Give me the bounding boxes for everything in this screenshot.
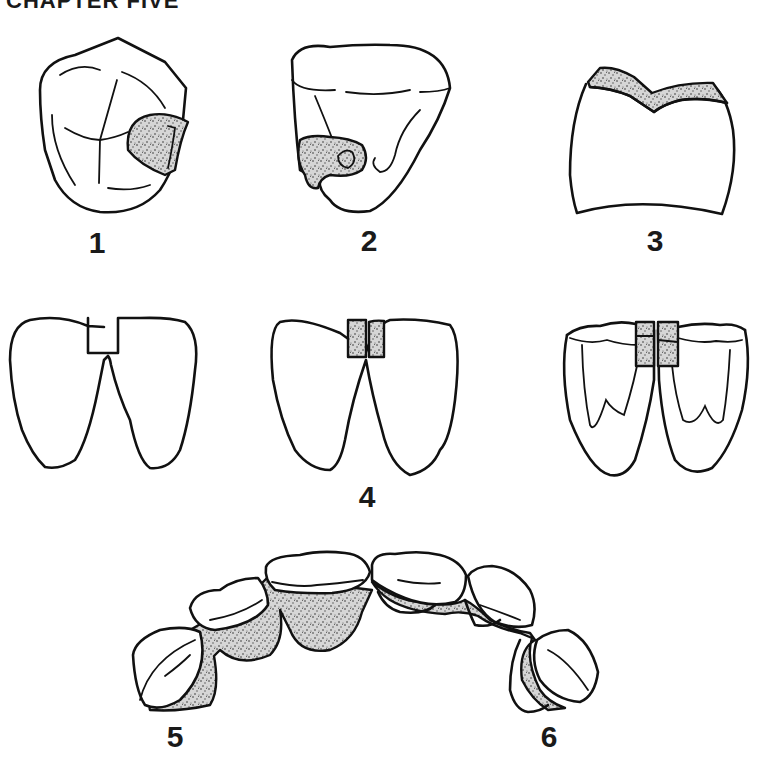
figure-6-arch — [372, 552, 598, 712]
figure-4c-splint-left — [636, 322, 654, 366]
figure-3-tooth — [570, 68, 734, 214]
figure-label-2: 2 — [361, 226, 378, 256]
dental-illustration — [0, 0, 779, 779]
figure-label-4: 4 — [359, 482, 376, 512]
figure-4a-teeth — [10, 318, 196, 468]
figure-label-6: 6 — [541, 722, 558, 752]
figure-4b-filling-right — [369, 321, 384, 357]
figure-label-5: 5 — [167, 722, 184, 752]
figure-label-1: 1 — [89, 228, 106, 258]
figure-5-arch — [133, 552, 372, 711]
figure-1-tooth — [40, 38, 188, 212]
figure-label-3: 3 — [647, 226, 664, 256]
figure-4b-filling-left — [348, 320, 366, 357]
figure-2-lesion — [298, 136, 366, 188]
figure-1-restoration — [128, 114, 188, 175]
figure-4c-splint-right — [658, 322, 678, 366]
figure-4b-teeth — [272, 320, 458, 475]
figure-2-tooth — [292, 45, 450, 212]
figure-4c-molars — [564, 322, 748, 475]
